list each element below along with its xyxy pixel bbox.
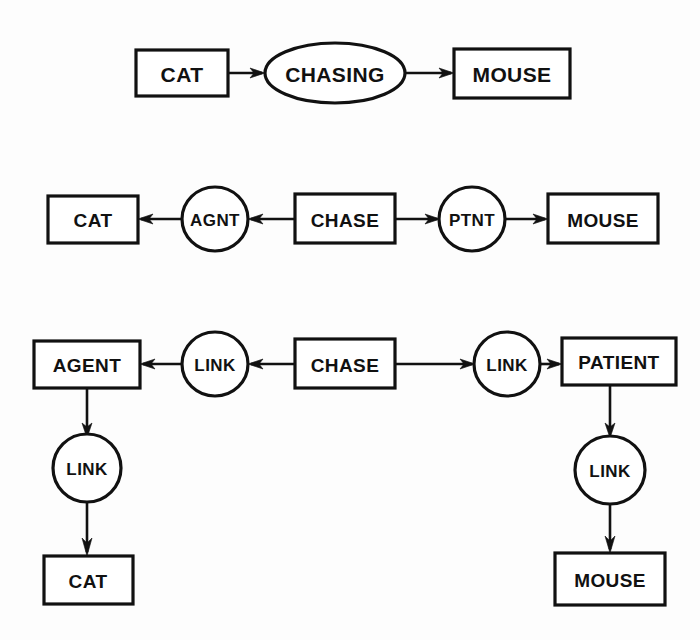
- node-r3-link-down-left-label: LINK: [66, 460, 108, 479]
- node-r2-agnt[interactable]: AGNT: [182, 187, 248, 251]
- node-r2-ptnt-label: PTNT: [449, 211, 495, 230]
- node-r3-link-down-left[interactable]: LINK: [53, 434, 121, 502]
- node-r3-patient[interactable]: PATIENT: [562, 338, 676, 385]
- edge-chasing-to-mouse: [405, 68, 454, 78]
- node-r1-mouse-label: MOUSE: [472, 63, 551, 86]
- edge-link-to-agent: [140, 359, 182, 369]
- node-r2-chase[interactable]: CHASE: [295, 194, 395, 243]
- node-r3-link-down-right[interactable]: LINK: [575, 436, 645, 504]
- edge-chase-to-ptnt: [395, 214, 440, 224]
- node-r1-chasing[interactable]: CHASING: [265, 43, 405, 103]
- node-r1-cat-label: CAT: [161, 63, 204, 86]
- node-r2-chase-label: CHASE: [311, 210, 380, 231]
- node-r3-agent-label: AGENT: [53, 355, 122, 376]
- edge-link-to-cat-down: [82, 500, 92, 556]
- node-r3-mouse-label: MOUSE: [574, 570, 646, 591]
- edge-link-to-mouse-down: [605, 504, 615, 553]
- node-r3-chase-label: CHASE: [311, 355, 380, 376]
- node-r3-link-left-label: LINK: [194, 356, 236, 375]
- edge-agent-to-link-down: [82, 388, 92, 438]
- edge-chase-to-link-right: [395, 359, 475, 369]
- node-r2-cat-label: CAT: [74, 210, 113, 231]
- diagram-canvas: CAT CHASING MOUSE: [0, 0, 700, 640]
- edge-link-to-patient: [540, 359, 562, 369]
- edge-agnt-to-cat: [138, 214, 182, 224]
- diagram-row-2: CAT AGNT CHASE PTNT MOUSE: [48, 187, 658, 251]
- node-r3-mouse[interactable]: MOUSE: [555, 553, 665, 605]
- node-r3-link-right[interactable]: LINK: [474, 332, 540, 396]
- node-r2-cat[interactable]: CAT: [48, 196, 138, 243]
- node-r3-agent[interactable]: AGENT: [34, 341, 140, 388]
- node-r3-link-down-right-label: LINK: [589, 462, 631, 481]
- node-r2-agnt-label: AGNT: [190, 211, 240, 230]
- node-r3-cat[interactable]: CAT: [44, 556, 133, 604]
- edge-ptnt-to-mouse: [505, 214, 548, 224]
- diagram-row-1: CAT CHASING MOUSE: [136, 43, 570, 103]
- node-r1-chasing-label: CHASING: [285, 63, 385, 86]
- node-r3-chase[interactable]: CHASE: [295, 339, 395, 388]
- edge-cat-to-chasing: [228, 68, 265, 78]
- edge-patient-to-link-down: [605, 385, 615, 438]
- edge-chase-to-link-left: [248, 359, 295, 369]
- node-r3-link-right-label: LINK: [486, 356, 528, 375]
- node-r3-patient-label: PATIENT: [578, 352, 659, 373]
- diagram-row-3: AGENT LINK CHASE LINK PATIENT: [34, 332, 676, 605]
- node-r2-ptnt[interactable]: PTNT: [439, 187, 505, 251]
- node-r3-link-left[interactable]: LINK: [182, 332, 248, 396]
- node-r3-cat-label: CAT: [69, 571, 108, 592]
- node-r2-mouse[interactable]: MOUSE: [548, 194, 658, 243]
- node-r2-mouse-label: MOUSE: [567, 210, 639, 231]
- node-r1-cat[interactable]: CAT: [136, 50, 228, 96]
- node-r1-mouse[interactable]: MOUSE: [454, 49, 570, 98]
- edge-chase-to-agnt: [248, 214, 295, 224]
- diagram-svg: CAT CHASING MOUSE: [0, 0, 700, 640]
